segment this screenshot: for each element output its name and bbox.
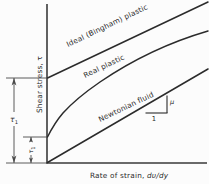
rheology-chart: μ 1 Ideal (Bingham) plastic Real plastic… [0,0,209,184]
curve-label-ideal-bingham-plastic: Ideal (Bingham) plastic [65,2,149,48]
x-axis-label-variable: dυ/dy [147,171,169,180]
dimension-tau1-real-plastic: τ1 [23,137,47,163]
dimension-tau1-bingham-label: τ1 [10,115,18,125]
svg-text:Rate of strain, dυ/dy: Rate of strain, dυ/dy [90,171,169,180]
curves-group [48,2,209,163]
slope-run-label: 1 [152,115,156,123]
slope-rise-label: μ [169,98,174,106]
dimension-tau1-real-plastic-subscript: 1 [30,146,36,149]
x-axis-label-main: Rate of strain, [90,171,147,180]
dimension-tau1-bingham-subscript: 1 [15,119,18,125]
curve-newtonian-fluid [48,69,209,163]
dimension-tau1-real-plastic-label: τ1 [27,146,36,153]
x-axis-label: Rate of strain, dυ/dy [90,171,169,180]
curve-label-newtonian-fluid: Newtonian fluid [97,90,155,124]
y-axis-label: Shear stress, τ [35,55,44,113]
curve-label-real-plastic: Real plastic [82,53,126,80]
